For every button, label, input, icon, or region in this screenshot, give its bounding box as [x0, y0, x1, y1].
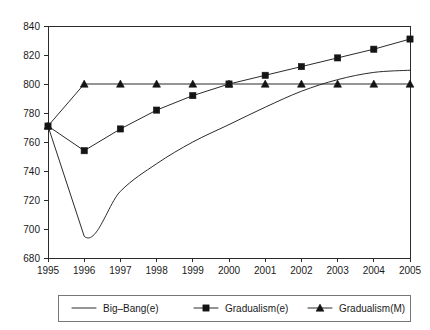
legend-item-label: Big–Bang(e) — [103, 303, 159, 314]
x-tick-label: 2000 — [218, 265, 241, 276]
x-tick-label: 1995 — [37, 265, 60, 276]
data-point-square — [190, 93, 196, 99]
data-point-square — [407, 36, 413, 42]
data-point-square — [262, 72, 268, 78]
y-tick-label: 820 — [23, 50, 40, 61]
y-tick-label: 680 — [23, 253, 40, 264]
x-tick-label: 2001 — [254, 265, 277, 276]
x-tick-label: 2002 — [290, 265, 313, 276]
x-tick-label: 2004 — [363, 265, 386, 276]
x-tick-label: 1998 — [145, 265, 168, 276]
data-point-square — [335, 55, 341, 61]
x-tick-label: 1997 — [109, 265, 132, 276]
x-tick-label: 2005 — [399, 265, 422, 276]
data-point-square — [371, 46, 377, 52]
y-tick-label: 840 — [23, 21, 40, 32]
legend-marker-square — [203, 305, 209, 311]
legend-item-label: Gradualism(e) — [225, 303, 288, 314]
y-tick-label: 700 — [23, 224, 40, 235]
data-point-square — [117, 126, 123, 132]
data-point-square — [298, 64, 304, 70]
y-tick-label: 780 — [23, 108, 40, 119]
chart-background — [0, 0, 430, 330]
data-point-square — [154, 107, 160, 113]
x-tick-label: 1996 — [73, 265, 96, 276]
chart-figure: 680700720740760780800820840 199519961997… — [0, 0, 430, 330]
data-point-square — [81, 148, 87, 154]
y-tick-label: 760 — [23, 137, 40, 148]
y-tick-label: 740 — [23, 166, 40, 177]
legend-item-label: Gradualism(M) — [339, 303, 405, 314]
y-tick-label: 720 — [23, 195, 40, 206]
y-tick-label: 800 — [23, 79, 40, 90]
x-tick-label: 2003 — [326, 265, 349, 276]
x-tick-label: 1999 — [182, 265, 205, 276]
